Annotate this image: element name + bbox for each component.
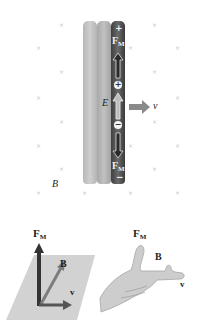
field-x-mark: × (175, 95, 180, 100)
right-hand-icon (95, 240, 195, 315)
field-x-mark: × (152, 119, 157, 124)
field-x-mark: × (82, 190, 87, 195)
hand-force-label: FM (133, 227, 146, 241)
velocity-vector-icon (36, 296, 76, 310)
force-label-top: FM (112, 35, 125, 48)
field-x-mark: × (128, 45, 133, 50)
negative-end-label: − (116, 172, 124, 182)
field-x-mark: × (59, 69, 64, 74)
field-x-mark: × (128, 190, 133, 195)
field-x-mark: × (59, 22, 64, 27)
force-arrow-up-icon (112, 52, 124, 79)
field-vector-label: B (60, 258, 67, 269)
force-arrow-down-icon (112, 132, 124, 159)
field-x-mark: × (152, 166, 157, 171)
field-x-mark: × (152, 69, 157, 74)
field-x-mark: × (36, 95, 41, 100)
field-x-mark: × (36, 45, 41, 50)
field-x-mark: × (175, 143, 180, 148)
field-x-mark: × (59, 119, 64, 124)
electric-field-label: E (102, 97, 108, 108)
magnetic-field-label: B (52, 178, 58, 189)
positive-charge-icon: + (114, 81, 122, 89)
hand-velocity-label: v (180, 279, 185, 289)
field-x-mark: × (128, 143, 133, 148)
field-x-mark: × (175, 190, 180, 195)
field-x-mark: × (36, 190, 41, 195)
velocity-vector-label: v (70, 287, 75, 297)
velocity-arrow-icon (129, 100, 151, 114)
positive-end-label: + (115, 23, 123, 33)
field-x-mark: × (175, 45, 180, 50)
field-x-mark: × (36, 143, 41, 148)
velocity-label: v (153, 100, 157, 111)
rod-position-1 (83, 21, 97, 184)
negative-charge-icon: − (114, 121, 122, 129)
field-x-mark: × (152, 22, 157, 27)
field-x-mark: × (59, 166, 64, 171)
hand-field-label: B (155, 251, 162, 262)
electric-field-arrow-icon (112, 92, 124, 120)
force-vector-label: FM (33, 227, 46, 241)
